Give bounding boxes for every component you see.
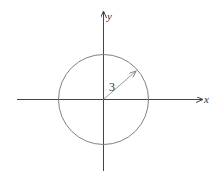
- radius-label: 3: [109, 80, 115, 94]
- x-axis-label: x: [203, 93, 209, 105]
- circle-diagram: y x 3: [0, 0, 219, 179]
- y-axis-label: y: [106, 10, 112, 22]
